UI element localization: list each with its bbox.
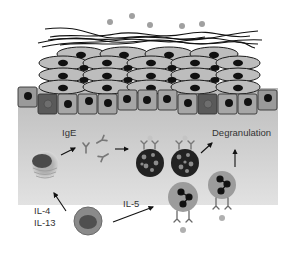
particles <box>107 13 205 29</box>
label-il4: IL-4 <box>34 206 50 216</box>
label-il5: IL-5 <box>123 199 139 209</box>
eosinophil-1 <box>168 182 198 233</box>
diagram: IgE Degranulation IL-4 IL-13 IL-5 <box>0 0 291 267</box>
label-degranulation: Degranulation <box>212 128 271 138</box>
arrow-tcell-to-eosinophil <box>113 207 153 222</box>
b-cell <box>31 151 59 179</box>
label-il13: IL-13 <box>34 218 56 228</box>
mucus-fibers <box>38 28 262 48</box>
label-ige: IgE <box>62 128 76 138</box>
t-cell <box>74 207 102 235</box>
